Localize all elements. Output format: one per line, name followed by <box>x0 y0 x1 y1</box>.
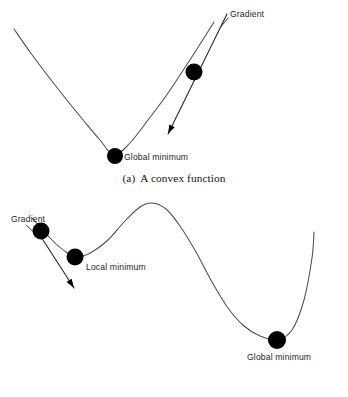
panel-convex-function: Gradient Global minimum (a)A convex func… <box>0 0 348 198</box>
global-minimum-marker <box>268 331 286 349</box>
local-minimum-marker <box>67 249 84 266</box>
local-minimum-label: Local minimum <box>86 262 146 272</box>
gradient-point-marker <box>186 64 203 81</box>
gradient-label: Gradient <box>230 9 265 19</box>
gradient-arrow-icon <box>67 279 74 288</box>
caption-index-a: (a) <box>123 172 136 184</box>
figure-root: Gradient Global minimum (a)A convex func… <box>0 0 348 397</box>
nonconvex-curve <box>32 203 314 340</box>
global-minimum-label: Global minimum <box>124 152 188 162</box>
convex-curve <box>14 22 214 155</box>
gradient-point-marker <box>33 223 50 240</box>
gradient-arrow-icon <box>168 125 175 134</box>
caption-text-a: A convex function <box>140 172 225 184</box>
global-minimum-marker <box>107 148 123 164</box>
nonconvex-function-plot: Gradient Local minimum Global minimum <box>0 198 348 397</box>
panel-nonconvex-function: Gradient Local minimum Global minimum (b… <box>0 198 348 397</box>
gradient-label: Gradient <box>11 214 46 224</box>
caption-convex: (a)A convex function <box>0 172 348 184</box>
global-minimum-label: Global minimum <box>247 352 311 362</box>
convex-function-plot: Gradient Global minimum <box>0 0 348 198</box>
